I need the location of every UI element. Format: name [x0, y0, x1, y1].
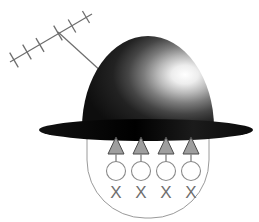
diagram-svg: XXXX — [0, 0, 259, 222]
hat-brim — [39, 119, 253, 141]
hat-crown-dome — [82, 36, 214, 128]
yagi-antenna — [10, 11, 103, 73]
open-circle-0 — [107, 162, 126, 181]
figure-canvas: XXXX — [0, 0, 259, 222]
x-marks: XXXX — [110, 183, 196, 202]
x-mark-1: X — [135, 183, 146, 202]
antenna-element-4 — [68, 20, 76, 33]
antenna-element-2 — [36, 38, 44, 52]
antenna-element-1 — [23, 45, 32, 60]
hat-brim-ellipse — [39, 119, 253, 141]
open-circle-3 — [182, 162, 201, 181]
open-circles — [107, 162, 201, 181]
open-circle-1 — [132, 162, 151, 181]
x-mark-3: X — [185, 183, 196, 202]
antenna-mast — [58, 32, 103, 73]
open-circle-2 — [157, 162, 176, 181]
antenna-element-0 — [10, 53, 19, 68]
x-mark-2: X — [160, 183, 171, 202]
x-mark-0: X — [110, 183, 121, 202]
antenna-element-3 — [54, 26, 63, 41]
hat-crown — [82, 36, 214, 128]
antenna-element-5 — [82, 11, 89, 23]
antenna-boom — [10, 14, 92, 62]
